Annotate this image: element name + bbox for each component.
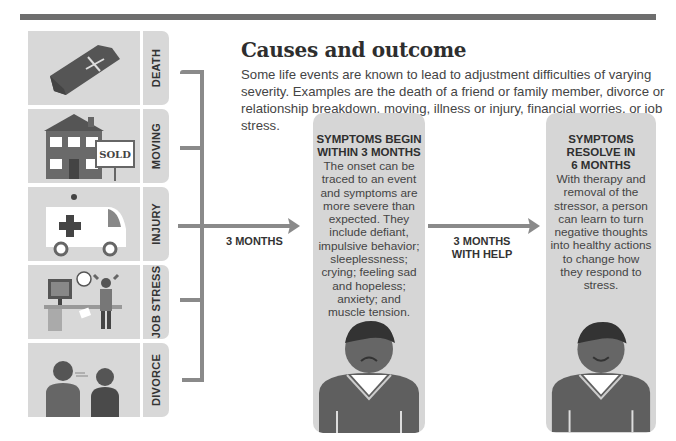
cause-divorce-image: [28, 343, 140, 417]
happy-person-icon: [546, 313, 656, 433]
arrow-label-3-months: 3 MONTHS: [226, 235, 283, 248]
stage-description: The onset can be traced to an event and …: [313, 160, 425, 320]
stage-heading: SYMPTOMSRESOLVE IN6 MONTHS: [546, 133, 656, 172]
cause-label-injury: INJURY: [143, 187, 169, 261]
stage-symptoms-resolve: SYMPTOMSRESOLVE IN6 MONTHS With therapy …: [546, 113, 656, 433]
cause-label-death: DEATH: [143, 31, 169, 105]
stage-heading: SYMPTOMS BEGINWITHIN 3 MONTHS: [313, 133, 425, 159]
arrowhead-icon: [528, 218, 542, 234]
page-title: Causes and outcome: [241, 38, 466, 62]
arrowhead-icon: [288, 218, 302, 234]
office-stress-icon: [28, 265, 140, 339]
cause-moving-image: SOLD: [28, 109, 140, 183]
sad-person-icon: [313, 313, 425, 433]
cause-death-image: [28, 31, 140, 105]
ambulance-icon: [28, 187, 140, 261]
stage-symptoms-begin: SYMPTOMS BEGINWITHIN 3 MONTHS The onset …: [313, 113, 425, 433]
arguing-couple-icon: [28, 343, 140, 417]
arrow-3-months: [178, 224, 296, 228]
cause-injury-image: [28, 187, 140, 261]
top-divider-bar: [20, 14, 656, 20]
cause-label-moving: MOVING: [143, 109, 169, 183]
coffin-icon: [28, 31, 140, 105]
cause-job-stress-image: [28, 265, 140, 339]
cause-label-job-stress: JOB STRESS: [143, 265, 169, 339]
cause-label-divorce: DIVORCE: [143, 343, 169, 417]
svg-text:SOLD: SOLD: [99, 149, 131, 160]
arrow-label-with-help: 3 MONTHSWITH HELP: [442, 235, 522, 261]
arrow-3-months-with-help: [428, 224, 536, 228]
stage-description: With therapy and removal of the stressor…: [546, 173, 656, 293]
house-sold-icon: SOLD: [28, 109, 140, 183]
